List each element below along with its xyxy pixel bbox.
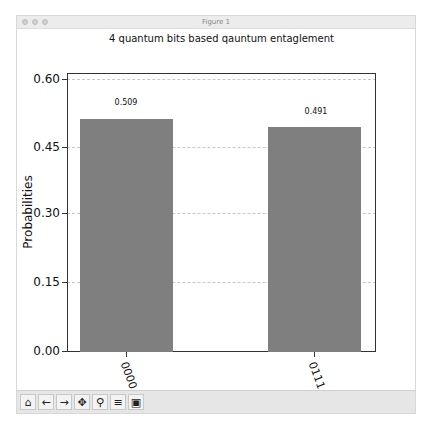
forward-icon: → [59, 397, 68, 408]
configure-subplots-button[interactable]: ≡ [110, 394, 126, 410]
navigation-toolbar: ⌂ ← → ✥ ⚲ ≡ ▣ [17, 390, 415, 413]
y-tick [62, 351, 67, 352]
pan-icon: ✥ [77, 397, 86, 408]
home-icon: ⌂ [25, 397, 32, 408]
bar-0000 [80, 119, 173, 352]
zoom-icon: ⚲ [96, 397, 104, 408]
home-button[interactable]: ⌂ [20, 394, 36, 410]
y-tick [62, 282, 67, 283]
bar-value-label: 0.509 [96, 98, 156, 107]
x-tick [314, 352, 315, 357]
y-tick [62, 147, 67, 148]
y-axis-title: Probabilities [21, 172, 35, 252]
back-button[interactable]: ← [38, 394, 54, 410]
save-icon: ▣ [131, 397, 141, 408]
title-bar[interactable]: Figure 1 [17, 16, 415, 29]
y-tick [62, 213, 67, 214]
x-tick [126, 352, 127, 357]
zoom-button[interactable]: ⚲ [92, 394, 108, 410]
pan-button[interactable]: ✥ [74, 394, 90, 410]
y-tick-label: 0.60 [20, 72, 60, 86]
back-icon: ← [41, 397, 50, 408]
forward-button[interactable]: → [56, 394, 72, 410]
bar-value-label: 0.491 [286, 107, 346, 116]
save-button[interactable]: ▣ [128, 394, 144, 410]
y-tick-label: 0.15 [20, 275, 60, 289]
y-tick [62, 79, 67, 80]
y-tick-label: 0.00 [20, 344, 60, 358]
y-tick-label: 0.45 [20, 140, 60, 154]
bar-0111 [268, 127, 361, 352]
configure-subplots-icon: ≡ [113, 397, 122, 408]
window-title: Figure 1 [17, 16, 415, 28]
chart-title: 4 quantum bits based qauntum entaglement [67, 33, 376, 44]
